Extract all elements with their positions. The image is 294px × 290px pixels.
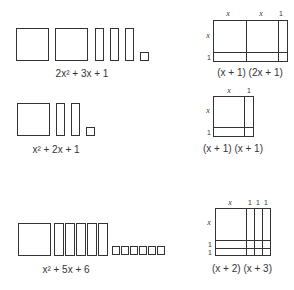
unit-tile — [87, 128, 95, 136]
row2-area-model — [214, 97, 254, 137]
unit-tile — [149, 247, 156, 255]
row3-polynomial-label: x² + 5x + 6 — [42, 264, 90, 275]
x-tile — [111, 29, 119, 61]
row3-top-label-4: 1 — [264, 199, 268, 206]
row1-top-label-1: x — [225, 9, 230, 18]
row3-side-label-3: 1 — [208, 249, 212, 256]
algebra-tiles-diagram: 2x² + 3x + 1 (x + 1) (2x + 1) x x 1 x 1 … — [0, 0, 294, 290]
x-tile — [77, 224, 86, 256]
row3-side-label-1: x — [206, 218, 211, 227]
x-tile — [88, 224, 97, 256]
row2-top-label-1: x — [226, 86, 231, 95]
x-tile — [96, 29, 104, 61]
x-squared-tile — [18, 104, 50, 136]
row3-area-model — [216, 209, 271, 256]
row1-polynomial-label: 2x² + 3x + 1 — [56, 68, 109, 79]
x-tile — [72, 104, 80, 136]
unit-tile — [113, 247, 120, 255]
row3-top-label-1: x — [227, 198, 232, 207]
x-tile — [66, 224, 75, 256]
unit-tile — [141, 53, 149, 61]
x-squared-tile — [56, 29, 88, 61]
row2-polynomial-label: x² + 2x + 1 — [32, 144, 80, 155]
row3-top-label-2: 1 — [248, 199, 252, 206]
row3-top-label-3: 1 — [256, 199, 260, 206]
unit-tile — [122, 247, 129, 255]
x-squared-tile — [17, 29, 49, 61]
row1-top-label-3: 1 — [279, 10, 283, 17]
x-tile — [55, 224, 64, 256]
row3-side-label-2: 1 — [208, 241, 212, 248]
row2-side-label-1: x — [205, 106, 210, 115]
row1-area-model — [214, 21, 288, 62]
row1-side-label-2: 1 — [207, 54, 211, 61]
row3-tiles — [19, 224, 165, 256]
row1-factored-label: (x + 1) (2x + 1) — [217, 67, 283, 78]
unit-tile — [158, 247, 165, 255]
row2-factored-label: (x + 1) (x + 1) — [203, 143, 263, 154]
row2-tiles — [18, 104, 95, 136]
row1-side-label-1: x — [205, 31, 210, 40]
row1-tiles — [17, 29, 149, 61]
x-tile — [126, 29, 134, 61]
x-tile — [99, 224, 108, 256]
x-squared-tile — [19, 224, 51, 256]
row3-factored-label: (x + 2) (x + 3) — [212, 263, 272, 274]
unit-tile — [131, 247, 138, 255]
unit-tile — [140, 247, 147, 255]
row2-side-label-2: 1 — [207, 129, 211, 136]
row2-top-label-2: 1 — [247, 87, 251, 94]
row1-top-label-2: x — [258, 9, 263, 18]
x-tile — [57, 104, 65, 136]
